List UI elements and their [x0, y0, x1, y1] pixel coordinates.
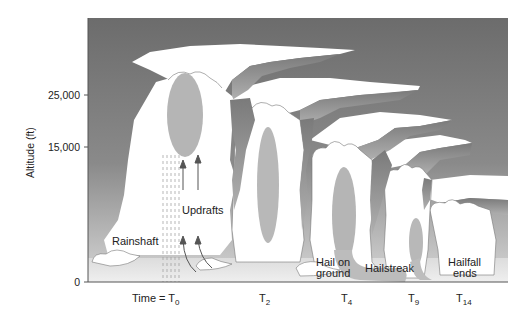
label-updrafts: Updrafts [182, 205, 224, 216]
hail-core-t0 [167, 73, 203, 157]
time-label-t9: T9 [408, 292, 419, 307]
time-label-t14: T14 [456, 292, 472, 307]
label-hailstreak: Hailstreak [365, 263, 414, 274]
hail-core-t2 [257, 127, 279, 243]
hail-core-t4 [332, 167, 356, 263]
time-label-t4: T4 [341, 292, 352, 307]
label-hailfall-ends-2: ends [453, 268, 477, 279]
time-label-t2: T2 [259, 292, 270, 307]
tick-label-25000: 25,000 [20, 89, 80, 101]
label-rainshaft: Rainshaft [112, 236, 158, 247]
tick-label-0: 0 [20, 276, 80, 288]
time-label-t0: Time = T0 [132, 292, 180, 307]
hailstorm-evolution-diagram [0, 0, 531, 318]
tick-label-15000: 15,000 [20, 141, 80, 153]
label-hail-on-ground-2: ground [316, 268, 350, 279]
hail-core-t9 [409, 218, 423, 266]
